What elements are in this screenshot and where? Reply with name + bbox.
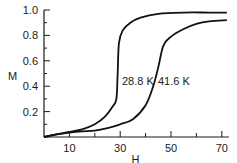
axes [44,10,229,137]
annotation-41-6k: 41.6 K [158,75,190,87]
hysteresis-chart: 0.20.40.60.81.010305070HM28.8 K41.6 K [0,0,237,163]
annotation-28-8k: 28.8 K [122,75,154,87]
x-tick-label: 70 [216,142,228,154]
x-tick-label: 10 [63,142,75,154]
x-tick-label: 50 [165,142,177,154]
y-tick-label: 0.8 [23,29,38,41]
y-tick-label: 0.6 [23,55,38,67]
y-axis-label: M [8,70,17,82]
x-axis-label: H [131,153,139,163]
x-tick-label: 30 [114,142,126,154]
y-tick-label: 0.2 [23,106,38,118]
y-tick-label: 0.4 [23,80,38,92]
y-tick-label: 1.0 [23,4,38,16]
